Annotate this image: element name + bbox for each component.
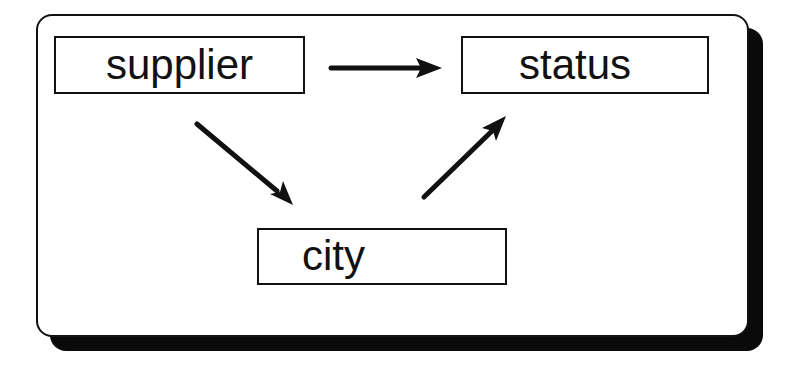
- arrow-supplier-to-status: [331, 58, 442, 78]
- arrow-supplier-to-city: [197, 124, 293, 205]
- arrow-city-to-status: [424, 116, 506, 197]
- edges-layer: [0, 0, 791, 365]
